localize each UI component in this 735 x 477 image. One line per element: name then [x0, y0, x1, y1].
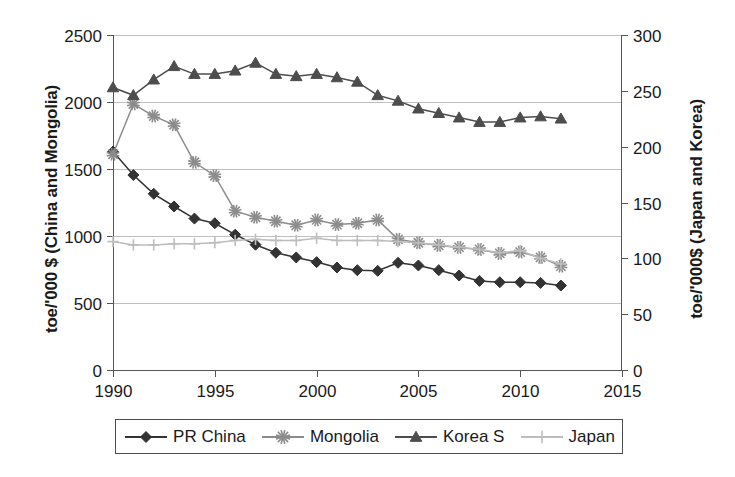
svg-text:0: 0 — [93, 362, 102, 381]
plus-icon — [519, 428, 565, 446]
chart-legend: PR China Mongolia Korea S Japan — [115, 419, 623, 454]
plot-area: 0500100015002000250005010015020025030019… — [0, 0, 735, 477]
svg-text:2010: 2010 — [502, 382, 540, 401]
svg-text:0: 0 — [633, 362, 642, 381]
series-pr-china — [108, 146, 567, 291]
chart-figure: toe/'000 $ (China and Mongolia) toe/'000… — [0, 0, 735, 477]
gridlines — [113, 36, 622, 371]
svg-text:50: 50 — [633, 306, 652, 325]
svg-text:200: 200 — [633, 139, 661, 158]
svg-text:1995: 1995 — [197, 382, 235, 401]
legend-label-3: Japan — [569, 427, 615, 447]
axis-lines — [113, 35, 622, 371]
legend-label-1: Mongolia — [310, 427, 379, 447]
data-series — [107, 57, 568, 291]
triangle-icon — [393, 428, 439, 446]
svg-text:150: 150 — [633, 195, 661, 214]
svg-text:250: 250 — [633, 83, 661, 102]
legend-item-1[interactable]: Mongolia — [258, 427, 381, 447]
asterisk-icon — [260, 428, 306, 446]
svg-text:1500: 1500 — [64, 161, 102, 180]
legend-label-0: PR China — [173, 427, 246, 447]
series-korea-s — [107, 57, 566, 126]
svg-text:500: 500 — [74, 295, 102, 314]
svg-text:300: 300 — [633, 27, 661, 46]
legend-label-2: Korea S — [443, 427, 504, 447]
svg-text:2000: 2000 — [299, 382, 337, 401]
legend-item-2[interactable]: Korea S — [391, 427, 506, 447]
svg-text:2005: 2005 — [400, 382, 438, 401]
svg-text:1990: 1990 — [95, 382, 133, 401]
legend-item-3[interactable]: Japan — [517, 427, 617, 447]
diamond-icon — [123, 428, 169, 446]
tick-marks — [107, 36, 628, 378]
svg-text:100: 100 — [633, 250, 661, 269]
svg-text:2000: 2000 — [64, 94, 102, 113]
svg-text:2015: 2015 — [604, 382, 642, 401]
svg-text:1000: 1000 — [64, 228, 102, 247]
svg-text:2500: 2500 — [64, 27, 102, 46]
legend-item-0[interactable]: PR China — [121, 427, 248, 447]
